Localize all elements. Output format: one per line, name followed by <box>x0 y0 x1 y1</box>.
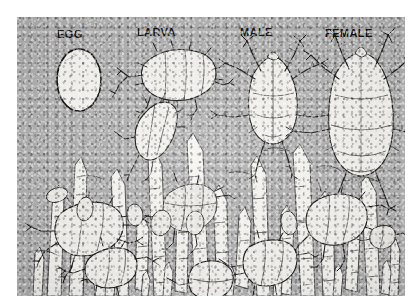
label-female: FEMALE <box>325 27 373 39</box>
illustration-plate: EGG LARVA MALE FEMALE <box>17 17 405 296</box>
habitat-mite-right-lower <box>219 230 321 296</box>
label-larva: LARVA <box>137 26 176 38</box>
label-male: MALE <box>240 26 273 38</box>
habitat-mite-climbing <box>114 93 185 181</box>
label-egg: EGG <box>57 28 83 40</box>
habitat-mite-center <box>137 173 235 255</box>
habitat-mite-layer <box>17 17 405 296</box>
figure-root: EGG LARVA MALE FEMALE <box>0 0 416 308</box>
